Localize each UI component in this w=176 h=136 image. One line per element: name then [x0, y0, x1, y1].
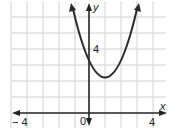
origin-label: 0: [80, 116, 86, 127]
x-tick-neg4: − 4: [12, 117, 28, 128]
y-tick-4: 4: [93, 44, 99, 55]
y-axis-label: y: [93, 2, 99, 13]
x-axis-label: x: [160, 101, 166, 112]
x-tick-4: 4: [149, 117, 155, 128]
